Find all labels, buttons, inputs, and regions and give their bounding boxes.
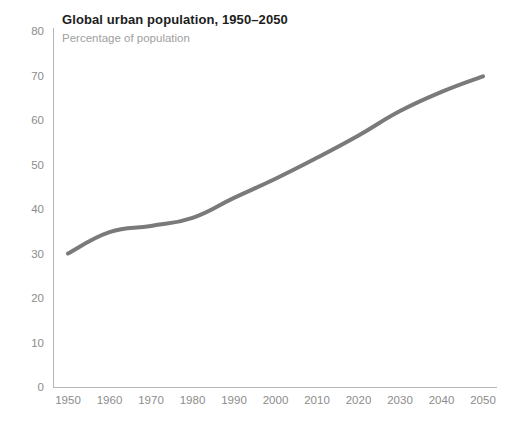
y-axis-tick-label: 0 (38, 381, 44, 393)
x-axis-tick-label: 2030 (387, 394, 413, 406)
x-axis-tick-label: 2050 (470, 394, 496, 406)
x-axis-tick-label: 1990 (221, 394, 247, 406)
x-axis-tick-label: 2040 (429, 394, 455, 406)
chart-container: Global urban population, 1950–2050 Perce… (0, 0, 522, 422)
x-axis-tick-label: 2000 (263, 394, 289, 406)
y-axis-tick-label: 50 (31, 159, 44, 171)
data-line-global-urban-population (68, 76, 483, 253)
y-axis-tick-label: 40 (31, 203, 44, 215)
x-axis-tick-label: 1970 (138, 394, 164, 406)
x-axis-tick-label: 2010 (304, 394, 330, 406)
x-axis-tick-label: 2020 (346, 394, 372, 406)
y-axis-tick-label: 30 (31, 248, 44, 260)
y-axis-tick-labels: 01020304050607080 (31, 25, 44, 393)
y-axis-tick-label: 70 (31, 70, 44, 82)
y-axis-tick-label: 60 (31, 114, 44, 126)
y-axis-tick-label: 20 (31, 292, 44, 304)
x-axis-tick-label: 1980 (180, 394, 206, 406)
chart-plot: 01020304050607080 1950196019701980199020… (0, 0, 522, 422)
x-axis-tick-label: 1960 (97, 394, 123, 406)
x-axis-tick-labels: 1950196019701980199020002010202020302040… (55, 394, 496, 406)
y-axis-tick-label: 10 (31, 337, 44, 349)
x-axis-tick-label: 1950 (55, 394, 81, 406)
y-axis-tick-label: 80 (31, 25, 44, 37)
